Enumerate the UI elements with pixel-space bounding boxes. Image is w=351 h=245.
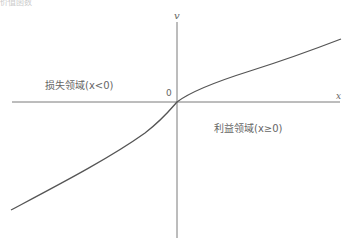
value-curve	[11, 39, 341, 210]
loss-region-label: 损失领域(x<0)	[45, 77, 113, 92]
gain-region-label: 利益领域(x≥0)	[214, 120, 282, 135]
x-axis-label: x	[336, 91, 341, 101]
y-axis-label: v	[174, 10, 180, 21]
origin-label: 0	[166, 88, 172, 98]
value-function-diagram	[0, 0, 351, 245]
